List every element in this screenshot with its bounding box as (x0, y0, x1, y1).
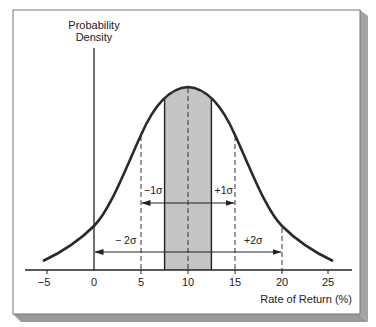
tick-label-0: 0 (91, 276, 97, 288)
minus-2-sigma-label: − 2σ (115, 234, 137, 246)
tick-label-10: 10 (182, 276, 194, 288)
tick-label-5: 5 (138, 276, 144, 288)
frame-shadow-bottom (13, 314, 368, 322)
plus-1-sigma-label: +1σ (215, 184, 234, 196)
normal-distribution-figure: Probability Density −5 0 5 10 15 20 25 R… (0, 0, 376, 327)
x-axis-label: Rate of Return (%) (260, 293, 352, 305)
y-axis-label-line1: Probability (68, 19, 120, 31)
tick-label-20: 20 (276, 276, 288, 288)
tick-label-neg5: −5 (38, 276, 51, 288)
tick-label-15: 15 (229, 276, 241, 288)
plus-2-sigma-label: +2σ (244, 234, 263, 246)
tick-label-25: 25 (322, 276, 334, 288)
frame-shadow-right (360, 10, 368, 322)
y-axis-label-line2: Density (76, 31, 113, 43)
minus-1-sigma-label: −1σ (144, 184, 163, 196)
